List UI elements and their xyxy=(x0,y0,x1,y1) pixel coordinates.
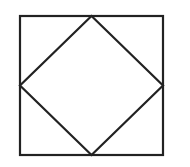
outer-square xyxy=(20,16,163,155)
inscribed-diamond xyxy=(20,16,163,155)
square-diamond-diagram xyxy=(0,0,190,167)
